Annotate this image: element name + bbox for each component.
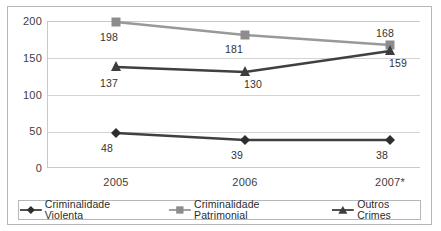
legend-item-criminalidade-violenta[interactable]: Criminalidade Violenta — [19, 199, 142, 221]
x-axis-tick-2005: 2005 — [76, 177, 156, 188]
marker-patrimonial-2005 — [112, 18, 121, 27]
data-label-violenta-2006: 39 — [231, 150, 243, 161]
legend-item-outros-crimes[interactable]: Outros Crimes — [331, 199, 420, 221]
marker-violenta-2006 — [240, 135, 250, 145]
chart-legend: Criminalidade Violenta Criminalidade Pat… — [18, 200, 421, 220]
data-label-violenta-2007: 38 — [376, 150, 388, 161]
data-label-outros-2005: 137 — [100, 78, 118, 89]
line-chart: 200 150 100 50 0 198 181 168 137 130 159… — [0, 0, 441, 231]
series-line-criminalidade-violenta — [116, 133, 390, 140]
x-axis-tick-2007: 2007* — [350, 177, 430, 188]
square-marker-icon — [168, 204, 192, 216]
marker-violenta-2005 — [111, 128, 121, 138]
data-label-patrimonial-2007: 168 — [376, 28, 394, 39]
marker-patrimonial-2006 — [241, 31, 250, 40]
data-label-outros-2006: 130 — [244, 79, 262, 90]
legend-item-criminalidade-patrimonial[interactable]: Criminalidade Patrimonial — [168, 199, 305, 221]
x-axis-tick-2006: 2006 — [205, 177, 285, 188]
data-label-patrimonial-2006: 181 — [225, 44, 243, 55]
series-line-criminalidade-patrimonial — [116, 22, 390, 45]
data-label-violenta-2005: 48 — [101, 143, 113, 154]
data-label-patrimonial-2005: 198 — [100, 32, 118, 43]
series-layer — [0, 0, 441, 231]
triangle-marker-icon — [331, 204, 355, 216]
legend-label-criminalidade-violenta: Criminalidade Violenta — [45, 199, 143, 221]
diamond-marker-icon — [19, 204, 43, 216]
marker-violenta-2007 — [385, 135, 395, 145]
series-line-outros-crimes — [116, 51, 390, 72]
data-label-outros-2007: 159 — [389, 58, 407, 69]
legend-label-outros-crimes: Outros Crimes — [357, 199, 420, 221]
legend-label-criminalidade-patrimonial: Criminalidade Patrimonial — [194, 199, 305, 221]
